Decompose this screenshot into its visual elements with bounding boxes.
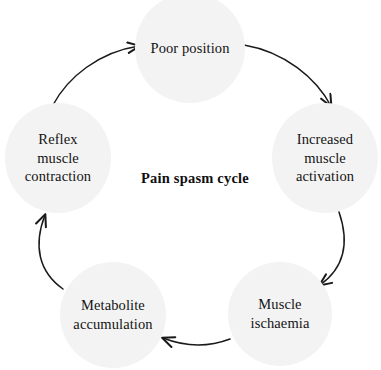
diagram-center-title: Pain spasm cycle [110, 170, 280, 187]
arrow-muscle-ischaemia-to-metabolite-accumulation [163, 338, 230, 345]
arrow-metabolite-accumulation-to-reflex-muscle-contraction [39, 215, 63, 289]
node-reflex-muscle-contraction[interactable]: Reflex muscle contraction [5, 103, 111, 213]
arrow-poor-position-to-increased-muscle-activation [244, 45, 331, 106]
node-increased-muscle-activation[interactable]: Increased muscle activation [272, 103, 378, 213]
arrow-increased-muscle-activation-to-muscle-ischaemia [320, 212, 344, 285]
node-reflex-muscle-contraction-label: Reflex muscle contraction [23, 130, 93, 186]
node-metabolite-accumulation-label: Metabolite accumulation [71, 296, 154, 333]
arrow-reflex-muscle-contraction-to-poor-position [53, 46, 139, 105]
node-metabolite-accumulation[interactable]: Metabolite accumulation [60, 262, 166, 368]
node-poor-position-label: Poor position [148, 39, 231, 58]
node-muscle-ischaemia-label: Muscle ischaemia [249, 295, 312, 332]
node-muscle-ischaemia[interactable]: Muscle ischaemia [228, 262, 332, 366]
node-increased-muscle-activation-label: Increased muscle activation [294, 130, 356, 186]
pain-spasm-cycle-diagram: Poor position Increased muscle activatio… [0, 0, 381, 370]
